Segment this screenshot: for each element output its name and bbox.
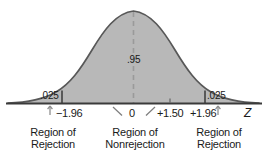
region-label-center-line1: Region of: [88, 127, 182, 139]
z-axis-label: Z: [244, 107, 251, 120]
normal-distribution-diagram: .025 .95 .025 −1.96 0 +1.50 +1.96 Z Regi…: [0, 0, 270, 157]
left-tail-probability-label: .025: [40, 91, 59, 102]
region-label-nonrejection: Region of Nonrejection: [88, 127, 182, 150]
region-label-left-rejection: Region of Rejection: [6, 127, 100, 150]
right-tail-probability-label: .025: [207, 91, 226, 102]
observed-value-tick-label: +1.50: [157, 108, 183, 120]
center-tick-label: 0: [129, 108, 135, 120]
lower-critical-tick-label: −1.96: [56, 108, 82, 120]
center-probability-label: .95: [127, 55, 140, 66]
nonrejection-leader-right: [146, 107, 155, 116]
upper-critical-tick-label: +1.96: [190, 108, 216, 120]
region-label-left-line2: Rejection: [6, 139, 100, 151]
region-label-left-line1: Region of: [6, 127, 100, 139]
lower-critical-arrow-tick: [48, 106, 53, 115]
nonrejection-leader-left: [113, 107, 122, 116]
region-label-right-line2: Rejection: [172, 139, 266, 151]
region-label-center-line2: Nonrejection: [88, 139, 182, 151]
region-label-right-rejection: Region of Rejection: [172, 127, 266, 150]
region-label-right-line1: Region of: [172, 127, 266, 139]
